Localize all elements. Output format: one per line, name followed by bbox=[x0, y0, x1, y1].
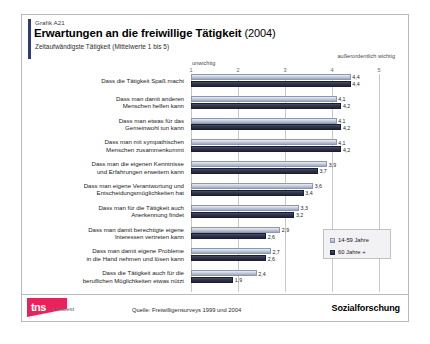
bar-value-label-series-1: 2,6 bbox=[268, 234, 275, 240]
bar-value-label-series-0: 2,7 bbox=[272, 249, 279, 255]
category-label: Dass die Tätigkeit Spaß macht bbox=[24, 77, 184, 84]
bar-series-0 bbox=[191, 139, 337, 145]
bar-series-0 bbox=[191, 118, 337, 124]
x-tick-label-2: 2 bbox=[236, 67, 239, 73]
logo-tns-text: tns bbox=[31, 301, 46, 313]
bar-series-1 bbox=[191, 146, 341, 152]
category-label: Dass man eigene Verantwortung und Entsch… bbox=[24, 182, 184, 197]
bar-value-label-series-0: 4,4 bbox=[352, 74, 359, 80]
axis-caption-high: außerordentlich wichtig bbox=[320, 53, 395, 60]
category-label: Dass man für die Tätigkeit auch Anerkenn… bbox=[24, 204, 184, 219]
legend-swatch-icon-series-0 bbox=[330, 238, 335, 243]
bar-value-label-series-1: 1,9 bbox=[235, 277, 242, 283]
bar-series-0 bbox=[191, 227, 280, 233]
bar-value-label-series-1: 4,2 bbox=[343, 147, 350, 153]
bar-series-1 bbox=[191, 233, 266, 239]
source-note: Quelle: Freiwilligensurveys 1999 und 200… bbox=[132, 307, 241, 313]
bar-series-0 bbox=[191, 205, 299, 211]
bar-series-1 bbox=[191, 124, 341, 130]
bar-value-label-series-1: 2,6 bbox=[268, 256, 275, 262]
chart-plot-area: unwichtig außerordentlich wichtig 12345D… bbox=[22, 15, 408, 321]
bar-series-0 bbox=[191, 96, 337, 102]
axis-caption-low: unwichtig bbox=[192, 60, 215, 66]
category-label: Dass man etwas für das Gemeinwohl tun ka… bbox=[24, 117, 184, 132]
bar-series-1 bbox=[191, 103, 341, 109]
legend-item-series-0: 14-59 Jahre bbox=[330, 237, 369, 243]
x-tick-label-4: 4 bbox=[330, 67, 333, 73]
bar-value-label-series-0: 2,9 bbox=[282, 227, 289, 233]
legend-label-series-1: 60 Jahre + bbox=[338, 249, 366, 255]
category-label: Dass die Tätigkeit auch für die beruflic… bbox=[24, 269, 184, 284]
bar-value-label-series-1: 4,2 bbox=[343, 103, 350, 109]
division-label: Sozialforschung bbox=[331, 303, 400, 313]
legend-label-series-0: 14-59 Jahre bbox=[338, 237, 369, 243]
bar-value-label-series-1: 3,7 bbox=[319, 168, 326, 174]
bar-series-0 bbox=[191, 270, 257, 276]
category-label: Dass man damit berechtigte eigene Intere… bbox=[24, 226, 184, 241]
bar-series-1 bbox=[191, 255, 266, 261]
chart-slide: Grafik A21 Erwartungen an die freiwillig… bbox=[21, 14, 409, 322]
bar-value-label-series-1: 4,4 bbox=[352, 81, 359, 87]
category-label: Dass man damit eigene Probleme in die Ha… bbox=[24, 247, 184, 262]
bar-value-label-series-0: 3,6 bbox=[315, 183, 322, 189]
x-tick-label-3: 3 bbox=[283, 67, 286, 73]
x-tick-label-5: 5 bbox=[377, 67, 380, 73]
bar-series-1 bbox=[191, 212, 294, 218]
legend-item-series-1: 60 Jahre + bbox=[330, 249, 366, 255]
bar-series-0 bbox=[191, 74, 351, 80]
category-label: Dass man die eigenen Kenntnisse und Erfa… bbox=[24, 160, 184, 175]
bar-value-label-series-1: 4,2 bbox=[343, 125, 350, 131]
bar-series-1 bbox=[191, 277, 233, 283]
bar-series-1 bbox=[191, 81, 351, 87]
bar-value-label-series-0: 4,1 bbox=[338, 140, 345, 146]
gridline-5 bbox=[379, 74, 380, 292]
bar-value-label-series-0: 3,3 bbox=[301, 205, 308, 211]
bar-value-label-series-0: 2,4 bbox=[258, 271, 265, 277]
bar-value-label-series-1: 3,4 bbox=[305, 190, 312, 196]
category-label: Dass man damit anderen Menschen helfen k… bbox=[24, 95, 184, 110]
logo-infratest-text: infratest bbox=[53, 305, 74, 312]
category-label: Dass man mit sympathischen Menschen zusa… bbox=[24, 138, 184, 153]
chart-legend: 14-59 Jahre 60 Jahre + bbox=[323, 229, 391, 259]
bar-value-label-series-1: 3,2 bbox=[296, 212, 303, 218]
bar-series-1 bbox=[191, 168, 318, 174]
bar-value-label-series-0: 4,1 bbox=[338, 96, 345, 102]
legend-swatch-icon-series-1 bbox=[330, 250, 335, 255]
bar-value-label-series-0: 4,1 bbox=[338, 118, 345, 124]
bar-series-1 bbox=[191, 190, 304, 196]
bar-series-0 bbox=[191, 248, 271, 254]
bar-value-label-series-0: 3,9 bbox=[329, 162, 336, 168]
bar-series-0 bbox=[191, 183, 313, 189]
x-tick-label-1: 1 bbox=[189, 67, 192, 73]
footer-divider bbox=[22, 294, 408, 295]
bar-series-0 bbox=[191, 161, 327, 167]
